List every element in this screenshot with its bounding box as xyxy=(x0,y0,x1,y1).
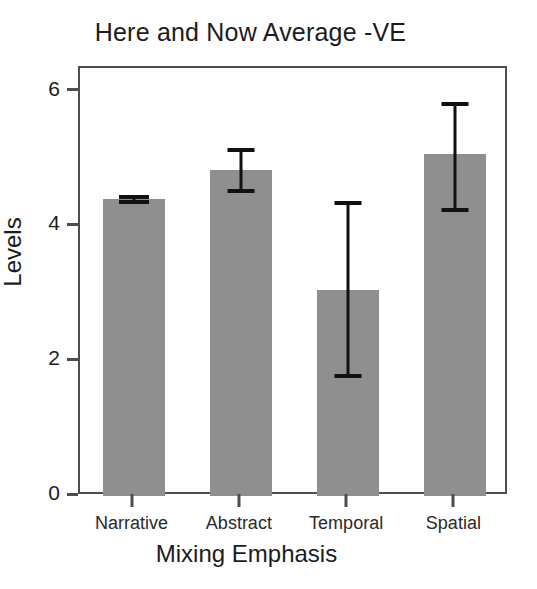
y-axis-label: Levels xyxy=(0,217,27,286)
y-tick-label: 2 xyxy=(48,346,60,370)
x-axis-label: Mixing Emphasis xyxy=(0,540,515,568)
bar-chart-figure: Here and Now Average -VE Levels 0246 Nar… xyxy=(0,0,537,589)
x-tick-mark-abstract xyxy=(237,494,240,507)
error-bar-cap-narrative-upper xyxy=(119,195,149,199)
x-tick-label-narrative: Narrative xyxy=(95,513,168,534)
x-tick-mark-narrative xyxy=(130,494,133,507)
error-bar-cap-spatial-upper xyxy=(442,102,469,106)
error-bar-cap-spatial-lower xyxy=(442,208,469,212)
x-tick-label-temporal: Temporal xyxy=(309,513,383,534)
y-tick-mark xyxy=(67,493,78,496)
error-bar-cap-temporal-upper xyxy=(335,201,362,205)
error-bar-line-abstract xyxy=(239,150,242,190)
y-tick-label: 0 xyxy=(48,481,60,505)
chart-title: Here and Now Average -VE xyxy=(0,18,519,47)
error-bar-cap-temporal-lower xyxy=(335,374,362,378)
error-bar-cap-abstract-upper xyxy=(227,148,254,152)
plot-area xyxy=(78,66,507,494)
bar-narrative xyxy=(103,199,165,496)
y-tick-mark xyxy=(67,223,78,226)
y-tick-label: 4 xyxy=(48,211,60,235)
bar-abstract xyxy=(210,170,272,496)
x-tick-mark-spatial xyxy=(452,494,455,507)
error-bar-cap-narrative-lower xyxy=(119,200,149,204)
error-bar-line-temporal xyxy=(347,203,350,376)
x-tick-label-abstract: Abstract xyxy=(206,513,272,534)
error-bar-cap-abstract-lower xyxy=(227,189,254,193)
y-tick-label: 6 xyxy=(48,77,60,101)
y-tick-mark xyxy=(67,88,78,91)
x-tick-mark-temporal xyxy=(345,494,348,507)
plot-inner xyxy=(80,68,505,492)
x-tick-label-spatial: Spatial xyxy=(426,513,481,534)
y-tick-mark xyxy=(67,358,78,361)
error-bar-line-spatial xyxy=(454,104,457,210)
